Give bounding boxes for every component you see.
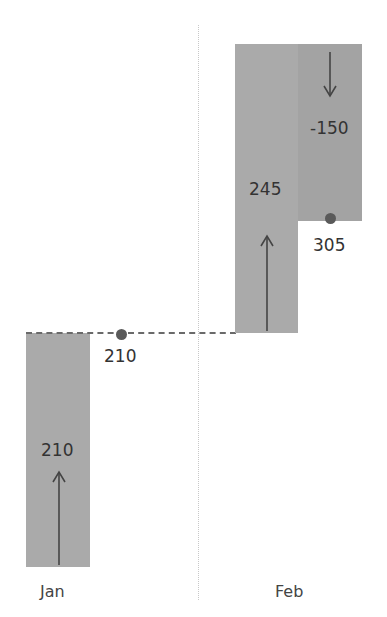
x-tick-feb: Feb	[275, 582, 303, 601]
total-marker-jan	[116, 329, 127, 340]
label-jan-total: 210	[104, 346, 136, 366]
label-feb-decrease: -150	[310, 118, 349, 138]
connector-line	[26, 332, 236, 334]
label-feb-total: 305	[313, 235, 345, 255]
label-feb-increase: 245	[249, 179, 281, 199]
category-divider	[198, 25, 199, 600]
arrow-up-icon	[260, 234, 274, 331]
arrow-up-icon	[52, 470, 66, 565]
x-tick-jan: Jan	[40, 582, 65, 601]
label-jan-change: 210	[41, 440, 73, 460]
total-marker-feb	[325, 213, 336, 224]
arrow-down-icon	[323, 52, 337, 98]
